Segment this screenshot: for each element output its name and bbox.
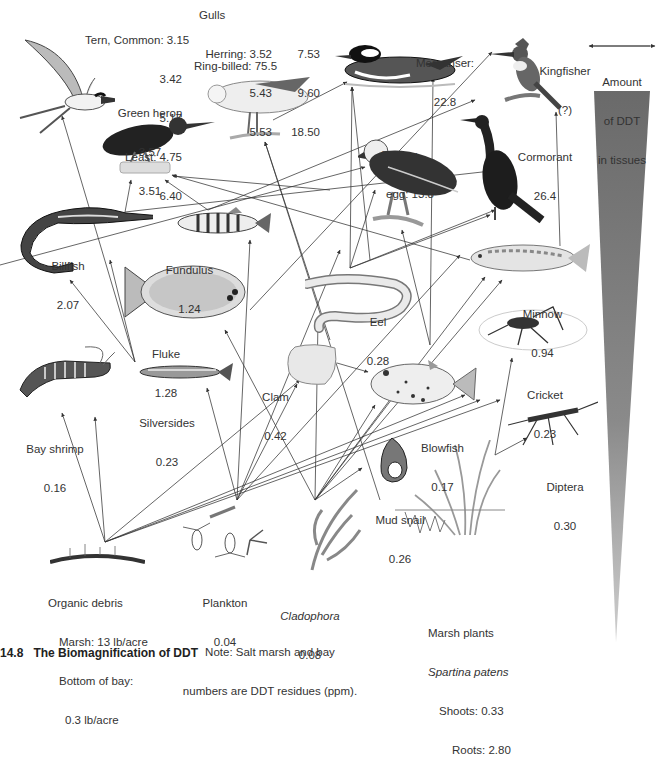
gulls-herring-values-col2: 7.53 9.60 18.50 <box>280 22 320 152</box>
minnow-name: Minnow <box>515 308 570 321</box>
marsh-plants-shoots-value: Shoots: 0.33 <box>428 705 511 718</box>
clam-illustration <box>285 342 340 387</box>
gulls-title: Gulls <box>199 9 225 22</box>
mud-snail-value: 0.26 <box>370 553 430 566</box>
tern-common-value-1: Tern, Common: 3.15 <box>85 34 182 47</box>
marsh-plants-name: Marsh plants <box>428 627 511 640</box>
cricket-name: Cricket <box>520 389 570 402</box>
clam-label: Clam 0.42 <box>258 365 293 456</box>
diptera-name: Diptera <box>540 481 590 494</box>
bay-shrimp-label: Bay shrimp 0.16 <box>25 417 85 508</box>
cricket-label: Cricket 0.23 <box>520 363 570 454</box>
eel-label: Eel 0.28 <box>358 290 398 381</box>
bay-shrimp-value: 0.16 <box>25 482 85 495</box>
scale-label-line3: in tissues <box>590 154 654 167</box>
eel-name: Eel <box>358 316 398 329</box>
silversides-label: Silversides 0.23 <box>137 391 197 482</box>
blowfish-name: Blowfish <box>415 442 470 455</box>
silversides-name: Silversides <box>137 417 197 430</box>
marsh-plants-roots-value: Roots: 2.80 <box>428 744 511 757</box>
cormorant-label: Cormorant 26.4 <box>510 125 580 216</box>
marsh-plants-label: Marsh plants Spartina patens Shoots: 0.3… <box>428 601 511 758</box>
merganser-value: 22.8 <box>395 96 495 109</box>
note-line-2: numbers are DDT residues (ppm). <box>180 685 360 698</box>
scale-label-line1: Amount <box>590 76 654 89</box>
marsh-plants-species: Spartina patens <box>428 666 511 679</box>
fundulus-name: Fundulus <box>162 264 217 277</box>
clam-value: 0.42 <box>258 430 293 443</box>
silversides-value: 0.23 <box>137 456 197 469</box>
billfish-name: Billfish <box>43 260 93 273</box>
green-heron-label: Green heron 3.57 3.51 <box>110 81 190 211</box>
cladophora-illustration <box>302 485 362 575</box>
organic-debris-name: Organic debris <box>48 597 148 610</box>
osprey-name: Osprey <box>370 149 450 162</box>
figure-number: 14.8 <box>0 646 23 660</box>
eel-value: 0.28 <box>358 355 398 368</box>
minnow-value: 0.94 <box>515 347 570 360</box>
plankton-illustration <box>175 505 270 560</box>
merganser-label: Merganser: 22.8 <box>395 31 495 122</box>
mud-snail-name: Mud snail <box>370 514 430 527</box>
billfish-value: 2.07 <box>43 299 93 312</box>
figure-caption: 14.8 The Biomagnification of DDT <box>0 646 198 660</box>
green-heron-value-1: 3.57 <box>110 146 190 159</box>
fluke-name: Fluke <box>146 348 186 361</box>
clam-name: Clam <box>258 391 293 404</box>
gull-herring-value-3: 5.53 <box>190 126 272 139</box>
figure-title: The Biomagnification of DDT <box>33 646 198 660</box>
fundulus-value: 1.24 <box>162 303 217 316</box>
diptera-value: 0.30 <box>540 520 590 533</box>
green-heron-name: Green heron <box>110 107 190 120</box>
merganser-illustration <box>5 0 6 1</box>
bay-shrimp-illustration <box>15 345 115 400</box>
minnow-label: Minnow 0.94 <box>515 282 570 373</box>
gull-herring-value-4: 7.53 <box>280 48 320 61</box>
mud-snail-label: Mud snail 0.26 <box>370 488 430 579</box>
minnow-illustration <box>468 238 592 278</box>
ddt-scale-label: Amount of DDT in tissues <box>590 50 654 180</box>
gulls-herring-values: Herring: 3.52 5.43 5.53 <box>190 22 272 152</box>
fundulus-illustration <box>173 207 273 239</box>
scale-label-line2: of DDT <box>590 115 654 128</box>
diptera-label: Diptera 0.30 <box>540 455 590 546</box>
organic-debris-illustration <box>50 540 145 565</box>
billfish-label: Billfish 2.07 <box>43 234 93 325</box>
note-text: Note: Salt marsh and bay numbers are DDT… <box>180 620 360 711</box>
cricket-value: 0.23 <box>520 428 570 441</box>
cormorant-name: Cormorant <box>510 151 580 164</box>
gull-herring-value-5: 9.60 <box>280 87 320 100</box>
organic-debris-bay-label: Bottom of bay: <box>48 675 148 688</box>
cormorant-value: 26.4 <box>510 190 580 203</box>
plankton-name: Plankton <box>200 597 250 610</box>
note-line-1: Note: Salt marsh and bay <box>180 646 360 659</box>
gull-herring-value-2: 5.43 <box>190 87 272 100</box>
gull-ring-billed-value: Ring-billed: 75.5 <box>194 60 277 73</box>
bay-shrimp-name: Bay shrimp <box>25 443 85 456</box>
merganser-name: Merganser: <box>395 57 495 70</box>
osprey-egg-value: egg: 13.8 <box>370 188 450 201</box>
osprey-label: Osprey egg: 13.8 <box>370 123 450 214</box>
fundulus-label: Fundulus 1.24 <box>162 238 217 329</box>
green-heron-value-2: 3.51 <box>110 185 190 198</box>
organic-debris-bay-value: 0.3 lb/acre <box>48 714 148 727</box>
gull-herring-value-6: 18.50 <box>280 126 320 139</box>
